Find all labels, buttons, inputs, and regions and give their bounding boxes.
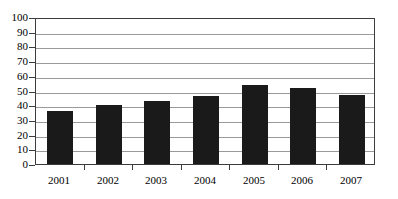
y-axis-tick-label: 80 (0, 41, 28, 52)
gridline (36, 34, 374, 35)
x-axis-tick-label: 2003 (132, 174, 180, 186)
y-axis-tick-label: 10 (0, 144, 28, 155)
bar (47, 111, 73, 164)
y-axis-tick-label: 50 (0, 86, 28, 97)
bar (193, 96, 219, 164)
y-axis-tick-label: 90 (0, 27, 28, 38)
y-axis-tick-label: 60 (0, 71, 28, 82)
x-axis-tick-label: 2001 (35, 174, 83, 186)
gridline (36, 78, 374, 79)
x-axis-tick (84, 165, 85, 170)
x-axis-tick (326, 165, 327, 170)
x-axis-tick-label: 2002 (84, 174, 132, 186)
bar (242, 85, 268, 164)
gridline (36, 63, 374, 64)
gridline (36, 48, 374, 49)
bar (144, 101, 170, 164)
y-axis-tick-label: 0 (0, 159, 28, 170)
x-axis-tick-label: 2007 (327, 174, 375, 186)
x-axis-tick-label: 2005 (230, 174, 278, 186)
x-axis-tick (132, 165, 133, 170)
bar (96, 105, 122, 164)
y-axis-tick-label: 70 (0, 56, 28, 67)
x-axis-tick-label: 2006 (278, 174, 326, 186)
bar (290, 88, 316, 164)
gridline (36, 93, 374, 94)
plot-area (35, 18, 375, 165)
x-axis-tick (229, 165, 230, 170)
x-axis-tick-label: 2004 (181, 174, 229, 186)
bar-chart: 0102030405060708090100 20012002200320042… (0, 0, 398, 199)
x-axis-tick (278, 165, 279, 170)
x-axis-tick (181, 165, 182, 170)
y-axis-tick-label: 30 (0, 115, 28, 126)
y-axis-tick-label: 100 (0, 12, 28, 23)
bar (339, 95, 365, 164)
y-axis-tick (29, 165, 35, 166)
y-axis-tick-label: 40 (0, 100, 28, 111)
y-axis-tick-label: 20 (0, 130, 28, 141)
